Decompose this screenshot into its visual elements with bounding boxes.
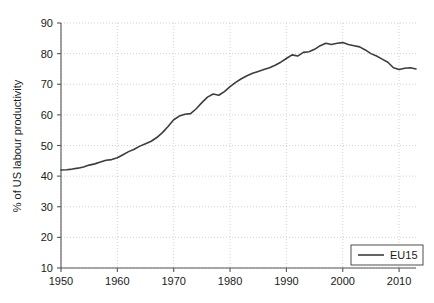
x-tick-label-1960: 1960: [105, 275, 129, 287]
line-chart: 102030405060708090 195019601970198019902…: [0, 0, 434, 303]
chart-container: 102030405060708090 195019601970198019902…: [0, 0, 434, 303]
y-axis-ticks: 102030405060708090: [41, 17, 61, 274]
y-axis-title: % of US labour productivity: [11, 79, 23, 212]
x-tick-label-1950: 1950: [49, 275, 73, 287]
y-tick-label-60: 60: [41, 109, 53, 121]
y-tick-label-10: 10: [41, 262, 53, 274]
y-tick-label-40: 40: [41, 170, 53, 182]
y-tick-label-20: 20: [41, 231, 53, 243]
x-tick-label-1990: 1990: [274, 275, 298, 287]
y-tick-label-90: 90: [41, 17, 53, 29]
x-tick-label-2010: 2010: [387, 275, 411, 287]
y-tick-label-30: 30: [41, 201, 53, 213]
y-tick-label-80: 80: [41, 48, 53, 60]
chart-legend[interactable]: EU15: [351, 245, 423, 265]
y-tick-label-50: 50: [41, 140, 53, 152]
x-tick-label-2000: 2000: [331, 275, 355, 287]
vertical-gridlines: [61, 23, 399, 268]
x-tick-label-1980: 1980: [218, 275, 242, 287]
horizontal-gridlines: [61, 23, 416, 268]
data-series-group: [61, 43, 416, 170]
legend-label-eu15: EU15: [390, 249, 418, 261]
x-axis-ticks: 1950196019701980199020002010: [49, 268, 412, 287]
series-line-eu15: [61, 43, 416, 170]
y-tick-label-70: 70: [41, 78, 53, 90]
x-tick-label-1970: 1970: [161, 275, 185, 287]
